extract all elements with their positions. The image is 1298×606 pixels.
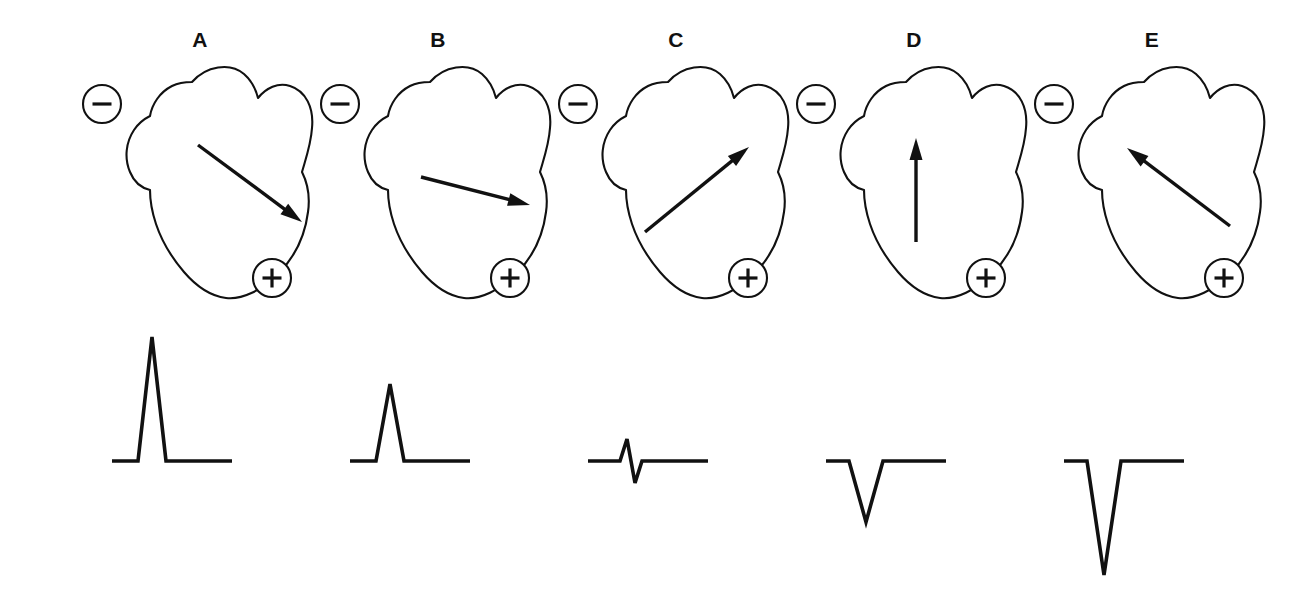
ecg-trace-a (80, 320, 320, 606)
panel-b: B (318, 0, 558, 606)
heart-vector-diagram (318, 60, 558, 320)
panel-e: E (1032, 0, 1272, 606)
ecg-trace-c (556, 320, 796, 606)
panel-label: D (794, 28, 1034, 52)
panel-a: A (80, 0, 320, 606)
ecg-trace-b (318, 320, 558, 606)
ecg-waveform (588, 439, 708, 483)
ecg-trace-e (1032, 320, 1272, 606)
heart-vector-diagram (80, 60, 320, 320)
panel-label: B (318, 28, 558, 52)
panel-label: C (556, 28, 796, 52)
ecg-waveform (350, 384, 470, 461)
panel-c: C (556, 0, 796, 606)
panel-d: D (794, 0, 1034, 606)
panel-label: E (1032, 28, 1272, 52)
ecg-vector-figure: ABCDE (0, 0, 1298, 606)
ecg-trace-d (794, 320, 1034, 606)
panel-label: A (80, 28, 320, 52)
ecg-waveform (826, 461, 946, 522)
ecg-waveform (1064, 461, 1184, 575)
ecg-waveform (112, 337, 232, 461)
heart-vector-diagram (794, 60, 1034, 320)
heart-vector-diagram (1032, 60, 1272, 320)
heart-vector-diagram (556, 60, 796, 320)
